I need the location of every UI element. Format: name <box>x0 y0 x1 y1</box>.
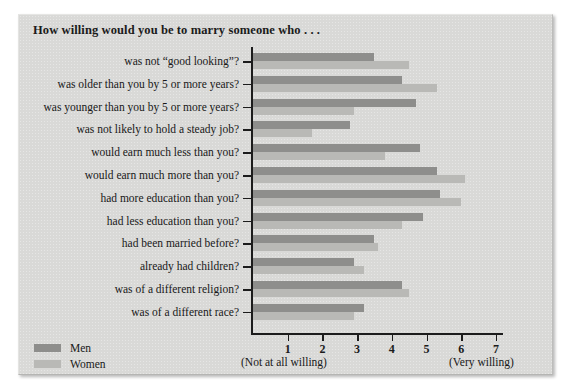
x-axis-tick-label: 7 <box>486 342 506 357</box>
category-tick <box>243 198 252 200</box>
x-axis-tick-label: 1 <box>278 342 298 357</box>
bar-men <box>253 121 350 129</box>
x-axis-tick <box>461 335 463 341</box>
legend-swatch-men <box>34 344 61 352</box>
bar-men <box>253 53 374 61</box>
category-label: was older than you by 5 or more years? <box>58 78 239 90</box>
category-label: would earn much less than you? <box>91 146 239 158</box>
bar-women <box>253 84 437 92</box>
category-label: already had children? <box>140 260 239 272</box>
x-axis-tick-label: 2 <box>312 342 332 357</box>
x-axis-tick <box>392 335 394 341</box>
bar-women <box>253 243 378 251</box>
bar-women <box>253 221 402 229</box>
chart-panel: How willing would you be to marry someon… <box>18 14 553 375</box>
legend-item-men: Men <box>34 341 105 355</box>
bar-women <box>253 152 385 160</box>
legend-item-women: Women <box>34 357 105 371</box>
x-axis-left-note: (Not at all willing) <box>241 356 327 368</box>
category-tick <box>243 289 252 291</box>
category-label: was not likely to hold a steady job? <box>76 123 239 135</box>
bar-men <box>253 190 440 198</box>
x-axis-tick-label: 3 <box>347 342 367 357</box>
legend-label-men: Men <box>70 342 91 354</box>
bar-men <box>253 144 420 152</box>
category-tick <box>243 152 252 154</box>
x-axis-tick <box>427 335 429 341</box>
category-tick <box>243 243 252 245</box>
category-label: would earn much more than you? <box>85 169 239 181</box>
legend-label-women: Women <box>70 358 105 370</box>
category-tick <box>243 221 252 223</box>
bar-women <box>253 61 409 69</box>
bar-women <box>253 175 465 183</box>
category-label: was younger than you by 5 or more years? <box>44 101 239 113</box>
bar-men <box>253 258 354 266</box>
bar-men <box>253 167 437 175</box>
x-axis-right-note: (Very willing) <box>449 356 514 368</box>
category-label: was of a different religion? <box>115 283 239 295</box>
x-axis-tick <box>288 335 290 341</box>
bar-men <box>253 99 416 107</box>
category-label: was of a different race? <box>131 306 239 318</box>
category-tick <box>243 107 252 109</box>
category-label: had more education than you? <box>100 192 239 204</box>
bar-men <box>253 235 374 243</box>
x-axis-tick-label: 4 <box>382 342 402 357</box>
category-tick <box>243 84 252 86</box>
bar-women <box>253 289 409 297</box>
bar-women <box>253 129 312 137</box>
chart-screenshot: How willing would you be to marry someon… <box>0 0 571 390</box>
x-axis-tick <box>496 335 498 341</box>
legend: Men Women <box>34 341 105 373</box>
category-tick <box>243 266 252 268</box>
bar-men <box>253 213 423 221</box>
bar-women <box>253 198 461 206</box>
x-axis-tick-label: 6 <box>451 342 471 357</box>
bar-men <box>253 76 402 84</box>
category-label: was not “good looking”? <box>124 55 239 67</box>
legend-swatch-women <box>34 360 61 368</box>
category-label: had been married before? <box>122 237 239 249</box>
plot-area: 1234567was not “good looking”?was older … <box>19 15 553 375</box>
bar-women <box>253 266 364 274</box>
category-label: had less education than you? <box>107 215 239 227</box>
x-axis-tick-label: 5 <box>417 342 437 357</box>
category-tick <box>243 175 252 177</box>
x-axis-tick <box>322 335 324 341</box>
bar-men <box>253 281 402 289</box>
category-tick <box>243 129 252 131</box>
x-axis-tick <box>357 335 359 341</box>
bar-women <box>253 312 354 320</box>
category-tick <box>243 61 252 63</box>
category-tick <box>243 312 252 314</box>
bar-women <box>253 107 354 115</box>
bar-men <box>253 304 364 312</box>
